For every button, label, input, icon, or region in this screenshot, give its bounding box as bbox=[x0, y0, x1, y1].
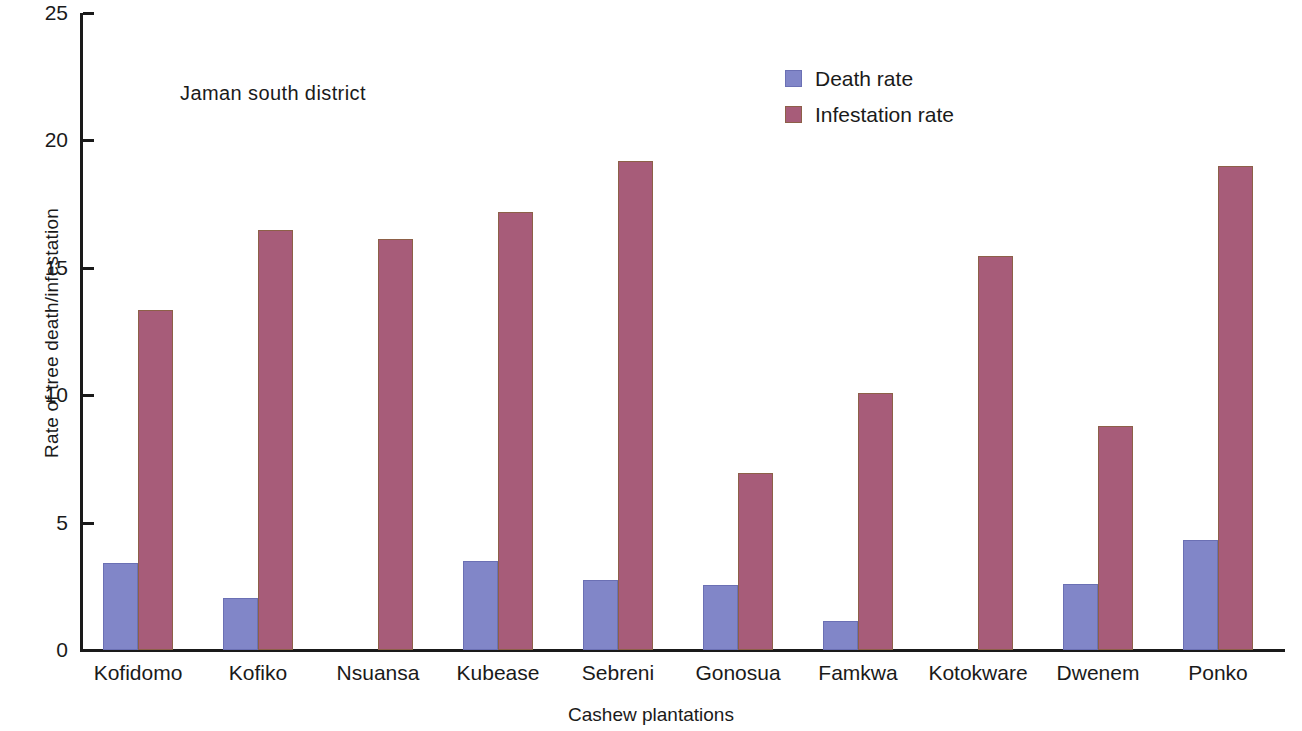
y-tick-label: 25 bbox=[22, 2, 68, 23]
bar-death-rate[interactable] bbox=[583, 580, 618, 650]
bar-chart: Rate of tree death/infestation 051015202… bbox=[0, 0, 1302, 731]
y-tick-label: 0 bbox=[22, 639, 68, 660]
y-tick-mark bbox=[83, 649, 94, 652]
bar-group bbox=[463, 13, 583, 650]
legend-item-infestation[interactable]: Infestation rate bbox=[785, 102, 954, 126]
bar-group bbox=[943, 13, 1063, 650]
bar-group bbox=[223, 13, 343, 650]
legend-swatch-icon bbox=[785, 106, 802, 123]
bar-infestation-rate[interactable] bbox=[498, 212, 533, 650]
bar-infestation-rate[interactable] bbox=[378, 239, 413, 651]
bar-infestation-rate[interactable] bbox=[1098, 426, 1133, 650]
bar-infestation-rate[interactable] bbox=[138, 310, 173, 650]
chart-annotation: Jaman south district bbox=[180, 82, 366, 105]
bar-infestation-rate[interactable] bbox=[978, 256, 1013, 650]
y-tick-mark bbox=[83, 139, 94, 142]
legend-item-death[interactable]: Death rate bbox=[785, 66, 954, 90]
bar-death-rate[interactable] bbox=[1183, 540, 1218, 650]
y-tick-mark bbox=[83, 522, 94, 525]
legend-label: Infestation rate bbox=[815, 104, 954, 125]
y-axis-tick-labels: 0510152025 bbox=[0, 0, 68, 731]
bar-infestation-rate[interactable] bbox=[1218, 166, 1253, 650]
bar-group bbox=[343, 13, 463, 650]
bar-infestation-rate[interactable] bbox=[618, 161, 653, 650]
bar-death-rate[interactable] bbox=[703, 585, 738, 650]
bar-group bbox=[1063, 13, 1183, 650]
y-tick-label: 5 bbox=[22, 512, 68, 533]
y-tick-mark bbox=[83, 12, 94, 15]
plot-area bbox=[83, 13, 1285, 650]
bar-infestation-rate[interactable] bbox=[738, 473, 773, 650]
bar-group bbox=[1183, 13, 1302, 650]
y-tick-label: 15 bbox=[22, 257, 68, 278]
x-tick-label: Ponko bbox=[1138, 662, 1298, 683]
bar-death-rate[interactable] bbox=[1063, 584, 1098, 650]
y-tick-label: 20 bbox=[22, 129, 68, 150]
bar-infestation-rate[interactable] bbox=[858, 393, 893, 650]
bar-group bbox=[583, 13, 703, 650]
y-tick-mark bbox=[83, 267, 94, 270]
legend: Death rateInfestation rate bbox=[785, 66, 954, 138]
bar-infestation-rate[interactable] bbox=[258, 230, 293, 650]
legend-swatch-icon bbox=[785, 70, 802, 87]
bar-death-rate[interactable] bbox=[223, 598, 258, 650]
bar-death-rate[interactable] bbox=[823, 621, 858, 650]
y-tick-label: 10 bbox=[22, 384, 68, 405]
bar-death-rate[interactable] bbox=[463, 561, 498, 650]
legend-label: Death rate bbox=[815, 68, 913, 89]
bar-group bbox=[103, 13, 223, 650]
x-axis-label: Cashew plantations bbox=[0, 704, 1302, 726]
y-tick-mark bbox=[83, 394, 94, 397]
bar-death-rate[interactable] bbox=[103, 563, 138, 650]
